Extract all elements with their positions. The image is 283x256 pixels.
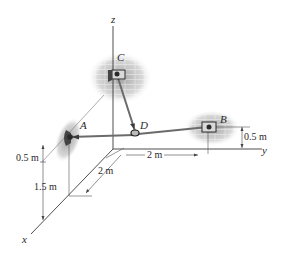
statics-diagram: z y x C A D B 0.5 m 1.5 m 2 m 2 m 0.5 m <box>0 0 283 256</box>
dim-y-offset: 2 m <box>145 150 164 160</box>
dim-x-offset: 2 m <box>98 166 113 176</box>
point-D-label: D <box>140 120 148 131</box>
dim-A-height-top: 0.5 m <box>16 153 39 163</box>
ring-D <box>131 130 139 136</box>
bracket-B <box>202 122 216 132</box>
dim-B-height: 0.5 m <box>244 132 267 142</box>
point-C-label: C <box>117 52 124 63</box>
dim-A-height-bottom: 1.5 m <box>34 182 57 192</box>
x-axis-label: x <box>22 234 27 245</box>
point-B-label: B <box>220 114 227 125</box>
point-A-label: A <box>80 120 87 131</box>
y-axis-label: y <box>262 145 267 156</box>
z-axis-label: z <box>111 14 115 25</box>
